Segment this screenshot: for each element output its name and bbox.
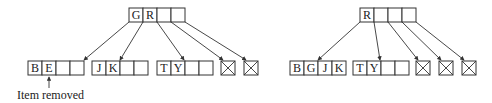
null-pointer-icon: [416, 61, 430, 75]
key-label: J: [323, 61, 328, 75]
item-removed-label: Item removed: [17, 88, 84, 102]
before-child-node-2: J K: [92, 61, 148, 75]
key-label: T: [356, 61, 364, 75]
key-label: G: [132, 8, 141, 22]
key-label: R: [146, 8, 154, 22]
key-label: T: [160, 61, 168, 75]
edge-arrow: [374, 22, 380, 60]
key-label: Y: [370, 61, 379, 75]
before-tree: G R B E J K: [17, 8, 258, 102]
key-label: J: [97, 61, 102, 75]
root-cell: [171, 8, 185, 22]
before-child-node-1: B E: [28, 61, 84, 75]
after-child-node-2: T Y: [353, 61, 409, 75]
after-child-node-1: B G J K: [290, 61, 346, 75]
key-label: B: [293, 61, 301, 75]
edge-arrow: [84, 22, 129, 60]
key-label: R: [363, 8, 371, 22]
edge-arrow: [318, 22, 360, 60]
key-label: E: [45, 61, 52, 75]
edge-arrow: [388, 22, 418, 60]
key-label: Y: [174, 61, 183, 75]
key-label: B: [31, 61, 39, 75]
key-label: G: [307, 61, 316, 75]
before-child-node-3: T Y: [157, 61, 213, 75]
null-pointer-icon: [439, 61, 453, 75]
edge-arrow: [402, 22, 441, 60]
after-tree: R B G J K T Y: [290, 8, 476, 75]
edge-arrow: [120, 22, 143, 60]
btree-diagram: G R B E J K: [0, 0, 492, 103]
edge-arrow: [416, 22, 464, 60]
root-cell: [157, 8, 171, 22]
null-pointer-icon: [221, 61, 235, 75]
key-label: K: [335, 61, 344, 75]
before-root-node: G R: [129, 8, 185, 22]
after-root-node: R: [360, 8, 416, 22]
edge-arrow: [157, 22, 184, 60]
null-pointer-icon: [244, 61, 258, 75]
null-pointer-icon: [462, 61, 476, 75]
key-label: K: [109, 61, 118, 75]
